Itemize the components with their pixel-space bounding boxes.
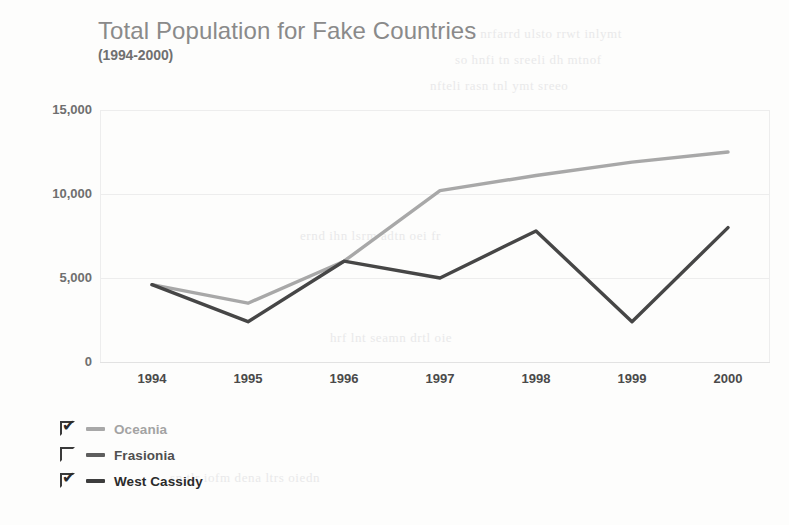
chart-header: Total Population for Fake Countries (199… bbox=[98, 18, 476, 63]
gridline-15000 bbox=[100, 110, 770, 111]
y-tick-label: 0 bbox=[16, 354, 92, 369]
checkbox-box-icon bbox=[60, 447, 75, 462]
chart-page: a nrfarrd ulsto rrwt inlymt so hnfi tn s… bbox=[0, 0, 789, 525]
x-tick-label: 1998 bbox=[522, 371, 551, 386]
x-tick-label: 1996 bbox=[330, 371, 359, 386]
legend-label-oceania: Oceania bbox=[114, 422, 167, 437]
gridline-0 bbox=[100, 362, 770, 363]
legend-color-swatch bbox=[86, 479, 105, 483]
scan-artifact-line: nfteli rasn tnl ymt sreeo bbox=[430, 78, 568, 94]
gridline-10000 bbox=[100, 194, 770, 195]
checkmark-icon: ✔ bbox=[62, 418, 75, 434]
x-tick-label: 1999 bbox=[618, 371, 647, 386]
plot-area bbox=[100, 110, 770, 363]
x-tick-label: 2000 bbox=[714, 371, 743, 386]
chart-title: Total Population for Fake Countries bbox=[98, 18, 476, 44]
legend-label-frasionia: Frasionia bbox=[114, 448, 175, 463]
legend-checkbox-oceania[interactable]: ✔ bbox=[60, 421, 77, 438]
checkmark-icon: ✔ bbox=[62, 470, 75, 486]
legend-item-west-cassidy[interactable]: ✔ West Cassidy bbox=[60, 468, 203, 494]
scan-artifact-line: a nrfarrd ulsto rrwt inlymt bbox=[470, 26, 622, 42]
legend-label-west-cassidy: West Cassidy bbox=[114, 474, 203, 489]
x-tick-label: 1994 bbox=[138, 371, 167, 386]
y-tick-label: 15,000 bbox=[16, 102, 92, 117]
x-tick-label: 1995 bbox=[234, 371, 263, 386]
y-tick-label: 5,000 bbox=[16, 270, 92, 285]
legend-checkbox-west-cassidy[interactable]: ✔ bbox=[60, 473, 77, 490]
legend-color-swatch bbox=[86, 427, 105, 431]
x-tick-label: 1997 bbox=[426, 371, 455, 386]
scan-artifact-line: so hnfi tn sreeli dh mtnof bbox=[455, 52, 602, 68]
chart-subtitle: (1994-2000) bbox=[98, 47, 476, 63]
gridline-5000 bbox=[100, 278, 770, 279]
legend-checkbox-frasionia[interactable] bbox=[60, 447, 77, 464]
chart-legend: ✔ Oceania Frasionia ✔ West Cassidy bbox=[60, 416, 203, 494]
legend-item-frasionia[interactable]: Frasionia bbox=[60, 442, 203, 468]
legend-item-oceania[interactable]: ✔ Oceania bbox=[60, 416, 203, 442]
y-tick-label: 10,000 bbox=[16, 186, 92, 201]
legend-color-swatch bbox=[86, 453, 105, 457]
